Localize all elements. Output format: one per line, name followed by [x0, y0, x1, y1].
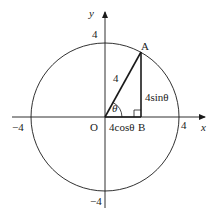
x-tick-pos: 4 [181, 119, 187, 131]
x-tick-neg: −4 [12, 121, 24, 133]
x-axis-label: x [200, 121, 206, 133]
point-origin-label: O [90, 121, 98, 133]
adjacent-label: 4cosθ [109, 121, 134, 133]
circle-diagram: y x 4 −4 −4 4 A O B 4 4sinθ 4cosθ θ [0, 0, 219, 216]
hypotenuse-label: 4 [113, 72, 119, 84]
right-angle-marker [134, 110, 141, 117]
y-tick-neg: −4 [90, 195, 102, 207]
angle-label: θ [112, 102, 118, 114]
opposite-label: 4sinθ [145, 91, 169, 103]
y-axis-label: y [88, 7, 94, 19]
point-A-label: A [141, 40, 149, 52]
point-B-label: B [138, 121, 145, 133]
hypotenuse-OA [105, 52, 141, 117]
y-tick-pos: 4 [92, 28, 98, 40]
